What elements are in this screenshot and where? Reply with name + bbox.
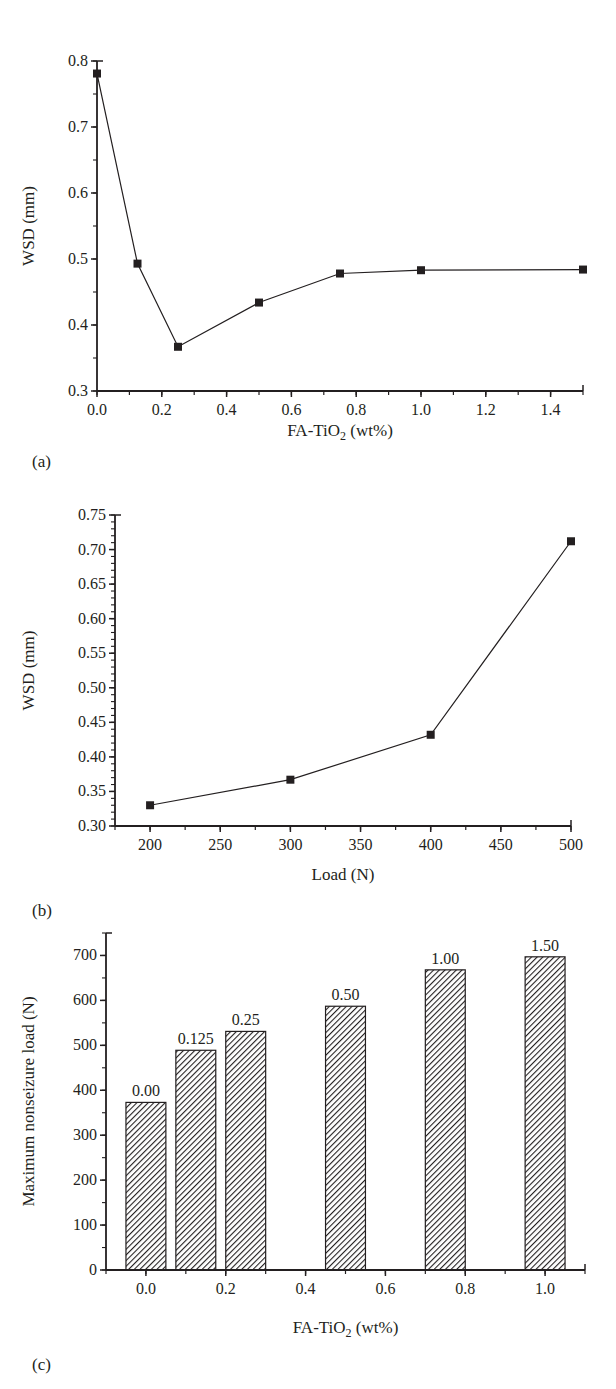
x-tick-label: 250: [208, 836, 232, 853]
y-tick-label: 100: [73, 1216, 97, 1233]
bar-value-label: 1.00: [431, 950, 459, 967]
y-tick-label: 0.70: [78, 541, 106, 558]
x-tick-label: 200: [138, 836, 162, 853]
data-point-marker: [286, 776, 294, 784]
data-point-marker: [134, 260, 142, 268]
x-tick-label: 1.0: [411, 401, 431, 418]
x-tick-label: 0.0: [87, 401, 107, 418]
y-tick-label: 0.3: [68, 382, 88, 399]
y-tick-label: 500: [73, 1036, 97, 1053]
x-tick-label: 0.6: [281, 401, 301, 418]
y-tick-label: 0.65: [78, 575, 106, 592]
data-point-marker: [417, 266, 425, 274]
x-axis-title: Load (N): [312, 865, 375, 884]
bar-value-label: 0.00: [132, 1082, 160, 1099]
x-tick-label: 0.2: [216, 1280, 236, 1297]
panel-label-a: (a): [32, 452, 51, 472]
y-tick-label: 0.55: [78, 644, 106, 661]
y-tick-label: 0.8: [68, 52, 88, 69]
bar-0.25: [226, 1031, 266, 1270]
y-tick-label: 0.5: [68, 250, 88, 267]
x-tick-label: 350: [349, 836, 373, 853]
data-line: [97, 74, 583, 347]
data-point-marker: [174, 343, 182, 351]
x-tick-label: 500: [559, 836, 583, 853]
y-tick-label: 0.35: [78, 782, 106, 799]
data-point-marker: [93, 70, 101, 78]
y-tick-label: 0.60: [78, 610, 106, 627]
x-tick-label: 0.8: [346, 401, 366, 418]
chart-a-wsd-vs-concentration: 0.00.20.40.60.81.01.21.40.30.40.50.60.70…: [19, 52, 587, 443]
chart-c-max-nonseizure-load-bars: 0.000.1250.250.501.001.500.00.20.40.60.8…: [19, 933, 585, 1340]
data-point-marker: [567, 537, 575, 545]
y-axis-title: WSD (mm): [19, 631, 38, 711]
y-tick-label: 0.30: [78, 817, 106, 834]
data-point-marker: [336, 270, 344, 278]
x-axis-title: FA-TiO2 (wt%): [293, 1318, 399, 1340]
bar-value-label: 0.25: [232, 1011, 260, 1028]
x-tick-label: 0.2: [152, 401, 172, 418]
x-tick-label: 450: [489, 836, 513, 853]
x-tick-label: 300: [278, 836, 302, 853]
bar-0.50: [326, 1006, 366, 1270]
x-tick-label: 400: [419, 836, 443, 853]
y-tick-label: 0.7: [68, 118, 88, 135]
x-tick-label: 1.0: [535, 1280, 555, 1297]
chart-b-wsd-vs-load: 2002503003504004505000.300.350.400.450.5…: [19, 506, 583, 884]
y-tick-label: 0: [89, 1261, 97, 1278]
x-tick-label: 1.2: [476, 401, 496, 418]
y-tick-label: 200: [73, 1171, 97, 1188]
bar-value-label: 0.125: [178, 1030, 214, 1047]
y-tick-label: 0.6: [68, 184, 88, 201]
data-line: [150, 541, 571, 805]
x-tick-label: 0.4: [217, 401, 237, 418]
bar-0.00: [126, 1102, 166, 1270]
bar-1.50: [525, 957, 565, 1270]
y-axis-title: WSD (mm): [19, 186, 38, 266]
bar-value-label: 1.50: [531, 937, 559, 954]
x-tick-label: 0.0: [136, 1280, 156, 1297]
bar-1.00: [425, 970, 465, 1270]
bar-value-label: 0.50: [332, 986, 360, 1003]
y-tick-label: 0.50: [78, 679, 106, 696]
y-tick-label: 600: [73, 991, 97, 1008]
y-tick-label: 700: [73, 946, 97, 963]
x-axis-title: FA-TiO2 (wt%): [287, 421, 393, 443]
x-tick-label: 1.4: [541, 401, 561, 418]
data-point-marker: [146, 801, 154, 809]
y-tick-label: 300: [73, 1126, 97, 1143]
y-tick-label: 0.4: [68, 316, 88, 333]
bar-0.125: [176, 1050, 216, 1270]
panel-label-b: (b): [32, 901, 52, 921]
y-tick-label: 0.75: [78, 506, 106, 523]
figure-canvas: 0.00.20.40.60.81.01.21.40.30.40.50.60.70…: [0, 0, 616, 1389]
x-tick-label: 0.4: [296, 1280, 316, 1297]
x-tick-label: 0.8: [455, 1280, 475, 1297]
y-tick-label: 0.45: [78, 713, 106, 730]
data-point-marker: [255, 299, 263, 307]
y-tick-label: 400: [73, 1081, 97, 1098]
y-tick-label: 0.40: [78, 748, 106, 765]
x-tick-label: 0.6: [375, 1280, 395, 1297]
y-axis-title: Maximum nonseizure load (N): [19, 996, 38, 1206]
data-point-marker: [427, 731, 435, 739]
data-point-marker: [579, 266, 587, 274]
panel-label-c: (c): [32, 1355, 51, 1375]
